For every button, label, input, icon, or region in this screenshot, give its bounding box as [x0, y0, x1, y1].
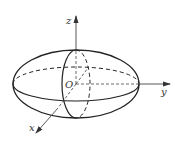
- z-axis-label: z: [65, 15, 72, 26]
- equator-front: [13, 84, 139, 101]
- x-axis-label: x: [29, 122, 35, 133]
- y-axis-label: y: [160, 86, 167, 97]
- ellipsoid-diagram: z y x O: [0, 0, 179, 147]
- origin-to-back-dashed: [76, 68, 88, 84]
- origin-label: O: [65, 79, 73, 90]
